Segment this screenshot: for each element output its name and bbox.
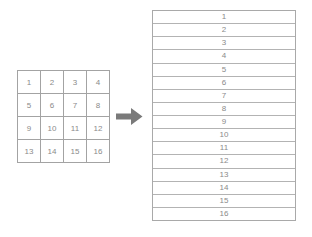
list-row: 9 <box>153 116 295 129</box>
list-row: 8 <box>153 103 295 116</box>
grid-cell: 9 <box>18 117 41 140</box>
grid-cell: 2 <box>41 71 64 94</box>
grid-cell: 8 <box>87 94 110 117</box>
right-arrow-shape <box>116 108 143 125</box>
grid-cell: 7 <box>64 94 87 117</box>
list-row: 6 <box>153 77 295 90</box>
list-row: 5 <box>153 64 295 77</box>
list-row: 12 <box>153 155 295 168</box>
list-row: 10 <box>153 129 295 142</box>
list-row: 1 <box>153 11 295 24</box>
result-list: 1 2 3 4 5 6 7 8 9 10 11 12 13 14 15 16 <box>152 10 296 221</box>
grid-row: 1 2 3 4 <box>18 71 110 94</box>
grid-cell: 10 <box>41 117 64 140</box>
grid-cell: 16 <box>87 140 110 163</box>
grid-row: 13 14 15 16 <box>18 140 110 163</box>
list-row: 11 <box>153 142 295 155</box>
grid-cell: 6 <box>41 94 64 117</box>
grid-cell: 13 <box>18 140 41 163</box>
list-row: 16 <box>153 208 295 220</box>
grid-cell: 5 <box>18 94 41 117</box>
right-arrow-icon <box>116 107 143 126</box>
grid-cell: 14 <box>41 140 64 163</box>
grid-cell: 3 <box>64 71 87 94</box>
grid-cell: 4 <box>87 71 110 94</box>
grid-cell: 12 <box>87 117 110 140</box>
list-row: 14 <box>153 182 295 195</box>
grid-row: 5 6 7 8 <box>18 94 110 117</box>
grid-row: 9 10 11 12 <box>18 117 110 140</box>
list-row: 15 <box>153 195 295 208</box>
list-row: 13 <box>153 169 295 182</box>
list-row: 2 <box>153 24 295 37</box>
list-row: 7 <box>153 90 295 103</box>
grid-cell: 15 <box>64 140 87 163</box>
source-grid: 1 2 3 4 5 6 7 8 9 10 11 12 13 14 15 16 <box>17 70 110 163</box>
grid-cell: 11 <box>64 117 87 140</box>
list-row: 4 <box>153 50 295 63</box>
list-row: 3 <box>153 37 295 50</box>
grid-cell: 1 <box>18 71 41 94</box>
diagram-canvas: 1 2 3 4 5 6 7 8 9 10 11 12 13 14 15 16 1… <box>0 0 312 237</box>
